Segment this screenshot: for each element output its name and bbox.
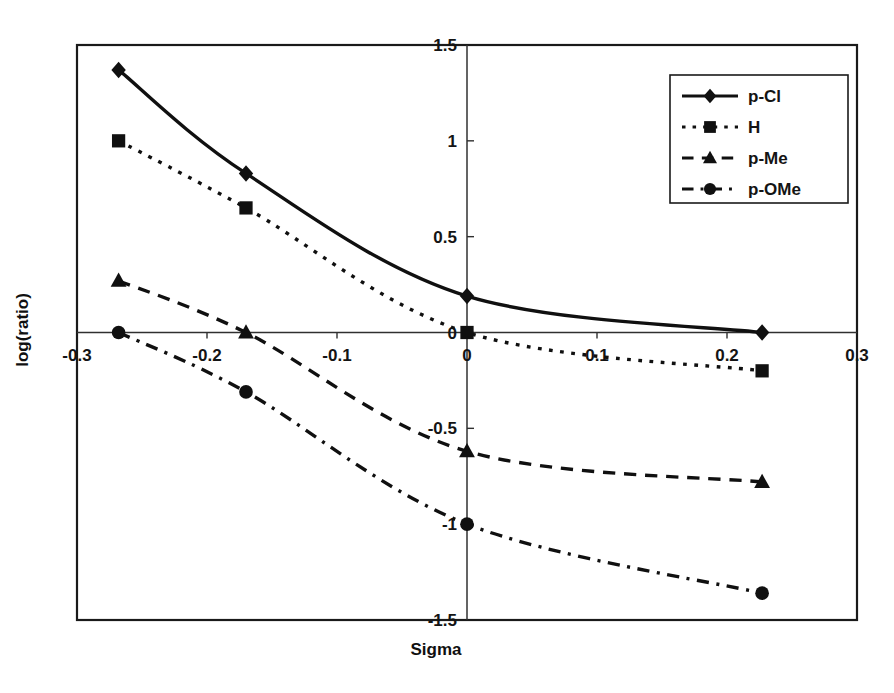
y-axis-title: log(ratio) [13, 293, 32, 367]
x-tick-label: -0.3 [62, 346, 91, 365]
legend-label: H [748, 118, 760, 137]
legend-label: p-Cl [748, 87, 781, 106]
x-tick-label: 0 [462, 346, 471, 365]
x-tick-label: 0.3 [845, 346, 869, 365]
square-marker [460, 326, 473, 339]
x-tick-label: 0.2 [715, 346, 739, 365]
legend: p-ClHp-Mep-OMe [670, 75, 848, 203]
y-tick-label: -0.5 [428, 419, 457, 438]
chart-container: -0.3-0.2-0.100.10.20.3 1.510.50-0.5-1-1.… [0, 0, 894, 693]
y-tick-label: 0.5 [433, 228, 457, 247]
legend-label: p-OMe [748, 180, 801, 199]
square-marker [704, 121, 716, 133]
x-tick-label: -0.2 [192, 346, 221, 365]
square-marker [239, 201, 252, 214]
x-tick-label: -0.1 [322, 346, 351, 365]
y-tick-label: 1.5 [433, 36, 457, 55]
circle-marker [755, 586, 769, 600]
circle-marker [460, 517, 474, 531]
square-marker [755, 364, 768, 377]
legend-label: p-Me [748, 149, 788, 168]
circle-marker [239, 385, 253, 399]
x-axis-title: Sigma [410, 640, 462, 659]
y-tick-label: -1.5 [428, 611, 457, 630]
circle-marker [704, 183, 716, 195]
circle-marker [112, 326, 126, 340]
y-tick-label: 1 [448, 132, 457, 151]
square-marker [112, 134, 125, 147]
sigma-log-ratio-line-chart: -0.3-0.2-0.100.10.20.3 1.510.50-0.5-1-1.… [0, 0, 894, 693]
